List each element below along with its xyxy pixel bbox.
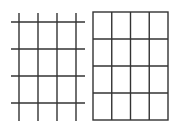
closed-cell-grid bbox=[93, 12, 168, 120]
open-line-grid bbox=[11, 13, 85, 121]
grid-diagram bbox=[0, 0, 176, 125]
